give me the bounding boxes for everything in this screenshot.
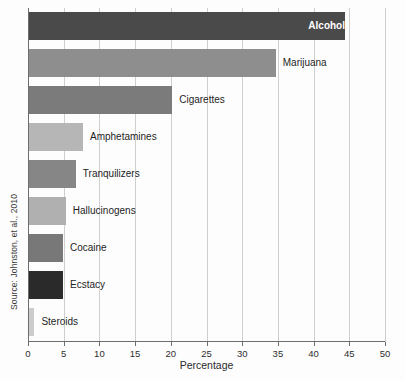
- bar[interactable]: [28, 271, 63, 299]
- bar-row[interactable]: Alcohol: [28, 12, 385, 40]
- y-axis-line: [28, 8, 29, 342]
- bar-row[interactable]: Steroids: [28, 308, 385, 336]
- bar[interactable]: [28, 160, 76, 188]
- bar[interactable]: [28, 197, 66, 225]
- bar[interactable]: [28, 234, 63, 262]
- bar-row[interactable]: Hallucinogens: [28, 197, 385, 225]
- x-tick: [349, 342, 350, 346]
- x-tick: [171, 342, 172, 346]
- bar-label: Marijuana: [276, 49, 327, 77]
- bar-label: Ecstacy: [63, 271, 105, 299]
- x-tick: [64, 342, 65, 346]
- bar-row[interactable]: Tranquilizers: [28, 160, 385, 188]
- bar-label: Alcohol: [28, 12, 354, 40]
- x-tick-label: 15: [120, 348, 150, 359]
- x-tick-label: 5: [49, 348, 79, 359]
- x-tick-label: 10: [84, 348, 114, 359]
- bar[interactable]: [28, 86, 172, 114]
- bar[interactable]: [28, 49, 276, 77]
- x-tick-label: 30: [227, 348, 257, 359]
- x-tick: [135, 342, 136, 346]
- x-tick: [314, 342, 315, 346]
- source-caption: Source: Johnston, et al., 2010: [9, 177, 23, 327]
- bar-row[interactable]: Amphetamines: [28, 123, 385, 151]
- bar-label: Hallucinogens: [66, 197, 136, 225]
- plot-area: AlcoholMarijuanaCigarettesAmphetaminesTr…: [28, 8, 385, 342]
- x-tick: [207, 342, 208, 346]
- x-tick: [28, 342, 29, 346]
- x-tick-label: 50: [370, 348, 400, 359]
- bar-label: Amphetamines: [83, 123, 157, 151]
- x-tick: [385, 342, 386, 346]
- x-tick: [278, 342, 279, 346]
- bar-label: Cigarettes: [172, 86, 225, 114]
- x-tick-label: 0: [13, 348, 43, 359]
- bar-label: Tranquilizers: [76, 160, 140, 188]
- x-tick-label: 35: [263, 348, 293, 359]
- bar-row[interactable]: Ecstacy: [28, 271, 385, 299]
- bar-label: Steroids: [34, 308, 78, 336]
- gridline: [385, 8, 386, 342]
- bar[interactable]: [28, 123, 83, 151]
- x-tick: [242, 342, 243, 346]
- bar-row[interactable]: Cigarettes: [28, 86, 385, 114]
- x-axis-title: Percentage: [28, 359, 385, 371]
- x-tick-label: 40: [299, 348, 329, 359]
- x-tick-label: 45: [334, 348, 364, 359]
- bar-row[interactable]: Marijuana: [28, 49, 385, 77]
- x-tick-label: 20: [156, 348, 186, 359]
- x-tick: [99, 342, 100, 346]
- x-tick-label: 25: [192, 348, 222, 359]
- bar-label: Cocaine: [63, 234, 107, 262]
- bar-chart: Source: Johnston, et al., 2010 AlcoholMa…: [0, 0, 405, 381]
- bar-row[interactable]: Cocaine: [28, 234, 385, 262]
